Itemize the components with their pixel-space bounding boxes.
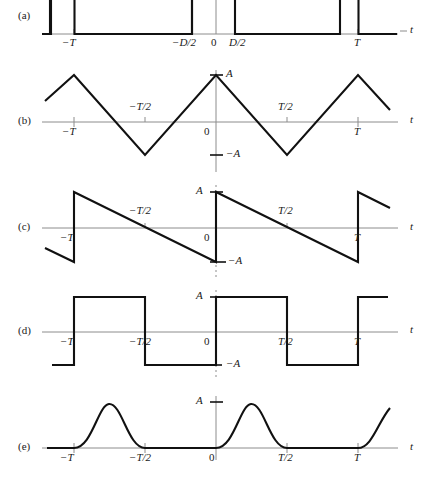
tick-b-minus-T2: −T/2 — [129, 100, 151, 112]
panel-b-axes — [42, 70, 398, 172]
amp-c-A: A — [196, 184, 203, 196]
axis-label-a-t: t — [410, 23, 413, 35]
tick-b-minus-T: −T — [62, 125, 76, 137]
panel-e-axes — [42, 396, 398, 460]
tick-e-minus-T: −T — [60, 451, 74, 463]
tick-b-zero: 0 — [204, 125, 210, 137]
tick-a-minus-T: −T — [62, 36, 76, 48]
axis-label-d-t: t — [410, 323, 413, 335]
amp-b-minus-A: −A — [226, 147, 240, 159]
amp-e-A: A — [196, 394, 203, 406]
tick-d-minus-T2: −T/2 — [129, 335, 151, 347]
tick-b-T: T — [354, 125, 360, 137]
tick-d-T: T — [354, 335, 360, 347]
tick-d-zero: 0 — [204, 335, 210, 347]
tick-a-zero: 0 — [211, 36, 217, 48]
panel-e-wave — [47, 404, 390, 448]
tick-c-T2: T/2 — [278, 204, 293, 216]
tick-c-minus-T: −T — [60, 231, 74, 243]
axis-label-b-t: t — [410, 113, 413, 125]
panel-a-axes — [42, 0, 407, 34]
tick-e-minus-T2: −T/2 — [129, 451, 151, 463]
tick-c-T: T — [354, 231, 360, 243]
tick-b-T2: T/2 — [278, 100, 293, 112]
panel-d-wave — [52, 297, 388, 365]
tick-d-T2: T/2 — [278, 335, 293, 347]
tick-a-T: T — [354, 36, 360, 48]
tick-c-zero: 0 — [204, 231, 210, 243]
amp-b-A: A — [226, 67, 233, 79]
panel-c-wave — [45, 192, 390, 262]
amp-d-minus-A: −A — [226, 357, 240, 369]
amp-d-A: A — [196, 289, 203, 301]
tick-e-T2: T/2 — [278, 451, 293, 463]
tick-e-T: T — [354, 451, 360, 463]
amp-c-minus-A: −A — [228, 254, 242, 266]
panel-b-wave — [45, 75, 390, 155]
tick-e-zero: 0 — [209, 451, 215, 463]
panel-d-axes — [42, 290, 398, 380]
tick-a-minus-D2: −D/2 — [172, 36, 196, 48]
axis-label-c-t: t — [410, 220, 413, 232]
tick-a-D2: D/2 — [229, 36, 246, 48]
waveform-figure: (a) (b) (c) (d) (e) — [0, 0, 429, 483]
panel-c-axes — [42, 185, 398, 278]
panel-a-wave — [42, 0, 397, 34]
tick-d-minus-T: −T — [60, 335, 74, 347]
axis-label-e-t: t — [410, 440, 413, 452]
tick-c-minus-T2: −T/2 — [129, 204, 151, 216]
